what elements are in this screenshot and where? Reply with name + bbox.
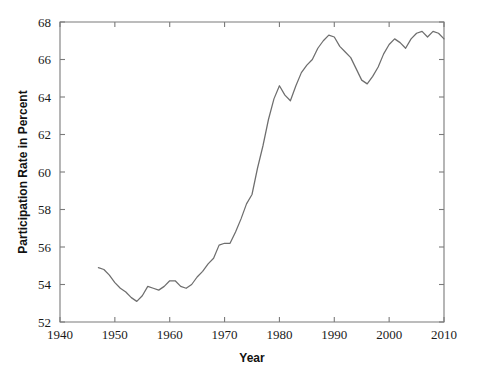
x-tick-label: 1960 [157,327,183,342]
x-tick-label: 2000 [376,327,402,342]
x-tick-label: 1950 [102,327,128,342]
plot-frame [60,22,444,322]
x-tick-label: 1940 [47,327,73,342]
x-tick-label: 1990 [321,327,347,342]
y-axis: 525456586062646668 [38,15,444,330]
x-axis: 19401950196019701980199020002010 [47,22,457,342]
y-tick-label: 66 [38,52,52,67]
y-tick-label: 68 [38,15,51,30]
y-tick-label: 60 [38,165,51,180]
axis-frame [60,22,444,322]
y-tick-label: 56 [38,240,52,255]
chart-figure: 525456586062646668 194019501960197019801… [0,0,479,374]
y-axis-title: Participation Rate in Percent [16,90,30,253]
y-tick-label: 62 [38,127,51,142]
y-tick-label: 54 [38,277,52,292]
x-axis-title: Year [239,351,265,365]
x-tick-label: 1980 [266,327,292,342]
series-group [98,31,444,301]
y-tick-label: 58 [38,202,51,217]
participation-rate-line [98,31,444,301]
participation-rate-line-chart: 525456586062646668 194019501960197019801… [0,0,479,374]
x-tick-label: 1970 [212,327,238,342]
x-tick-label: 2010 [431,327,457,342]
y-tick-label: 64 [38,90,52,105]
